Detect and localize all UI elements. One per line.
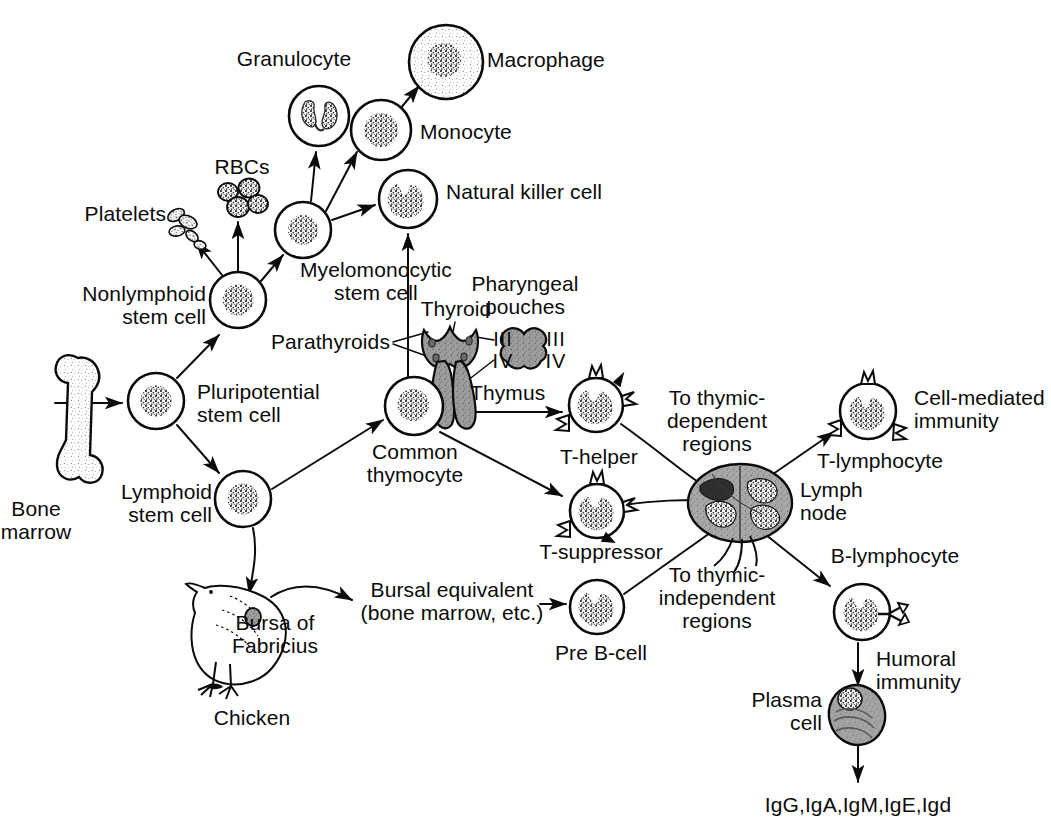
common-thymocyte-illustration bbox=[385, 377, 443, 435]
label-t-helper: T-helper bbox=[560, 445, 638, 468]
b-lymphocyte-illustration bbox=[834, 584, 909, 640]
label-natural-killer-cell: Natural killer cell bbox=[446, 180, 602, 203]
label-chicken: Chicken bbox=[214, 706, 291, 729]
label-pouch-iv-left: IV bbox=[493, 350, 514, 373]
edge-pluripotential-nonlymphoid bbox=[177, 335, 219, 378]
label-bone-marrow: Bone marrow bbox=[1, 497, 72, 543]
label-plasma-cell: Plasma cell bbox=[751, 688, 822, 734]
label-pharyngeal-pouches: Pharyngeal pouches bbox=[471, 272, 578, 318]
label-thymus: Thymus bbox=[470, 381, 545, 404]
edge-bursa-bursalequivalent bbox=[271, 586, 352, 600]
label-granulocyte: Granulocyte bbox=[237, 47, 351, 70]
label-b-lymphocyte: B-lymphocyte bbox=[831, 544, 959, 567]
edge-nonlymphoid-myelomonocytic bbox=[261, 255, 283, 281]
label-common-thymocyte: Common thymocyte bbox=[367, 440, 464, 486]
label-nonlymphoid-stem-cell: Nonlymphoid stem cell bbox=[82, 282, 206, 328]
t-lymphocyte-illustration bbox=[828, 371, 906, 440]
myelomonocytic-stem-cell-illustration bbox=[275, 202, 331, 258]
label-humoral-immunity: Humoral immunity bbox=[876, 647, 961, 693]
edge-lymphoid-chicken bbox=[249, 528, 255, 594]
lymph-node-illustration bbox=[688, 464, 792, 572]
macrophage-illustration bbox=[409, 25, 483, 99]
label-bursal-equivalent: Bursal equivalent (bone marrow, etc.) bbox=[361, 578, 544, 624]
edge-pluripotential-lymphoid bbox=[177, 425, 219, 473]
natural-killer-cell-illustration bbox=[379, 170, 437, 228]
edge-myelomonocytic-nkcell bbox=[332, 205, 375, 220]
diagram-canvas: Granulocyte Macrophage Monocyte Natural … bbox=[0, 0, 1051, 827]
monocyte-illustration bbox=[351, 100, 411, 160]
bone-marrow-illustration bbox=[56, 355, 103, 483]
label-platelets: Platelets bbox=[85, 202, 166, 225]
label-cell-mediated-immunity: Cell-mediated immunity bbox=[914, 386, 1045, 432]
pre-b-cell-illustration bbox=[570, 580, 624, 634]
label-pouch-iv-right: IV bbox=[546, 350, 567, 373]
edge-monocyte-macrophage bbox=[400, 86, 419, 109]
edge-myelomonocytic-granulocyte bbox=[311, 152, 316, 201]
label-pouch-iii-right: III bbox=[546, 328, 566, 351]
label-lymph-node: Lymph node bbox=[800, 478, 863, 524]
label-t-lymphocyte: T-lymphocyte bbox=[817, 449, 943, 472]
label-pluripotential-stem-cell: Pluripotential stem cell bbox=[197, 380, 320, 426]
lymphoid-stem-cell-illustration bbox=[215, 471, 271, 527]
granulocyte-illustration bbox=[289, 86, 349, 146]
platelets-illustration bbox=[165, 206, 206, 251]
pluripotential-stem-cell-illustration bbox=[128, 373, 184, 429]
label-bursa-of-fabricius: Bursa of Fabricius bbox=[232, 611, 318, 657]
t-helper-illustration bbox=[556, 365, 636, 432]
label-parathyroids: Parathyroids bbox=[271, 330, 390, 353]
label-to-thymic-dependent-regions: To thymic- dependent regions bbox=[667, 386, 767, 455]
t-suppressor-illustration bbox=[557, 471, 637, 542]
label-to-thymic-independent-regions: To thymic- independent regions bbox=[659, 563, 776, 632]
label-rbcs: RBCs bbox=[214, 155, 269, 178]
diagram-vector-layer bbox=[0, 0, 1051, 827]
label-macrophage: Macrophage bbox=[487, 48, 605, 71]
label-t-suppressor: T-suppressor bbox=[539, 540, 663, 563]
nonlymphoid-stem-cell-illustration bbox=[210, 272, 266, 328]
label-lymphoid-stem-cell: Lymphoid stem cell bbox=[121, 480, 212, 526]
label-pouch-iii-left: III bbox=[493, 328, 513, 351]
rbcs-illustration bbox=[218, 179, 268, 218]
label-pre-b-cell: Pre B-cell bbox=[555, 641, 647, 664]
label-immunoglobulins: IgG,IgA,IgM,IgE,Igd bbox=[765, 793, 951, 816]
edge-myelomonocytic-monocyte bbox=[326, 152, 357, 211]
label-monocyte: Monocyte bbox=[420, 120, 512, 143]
